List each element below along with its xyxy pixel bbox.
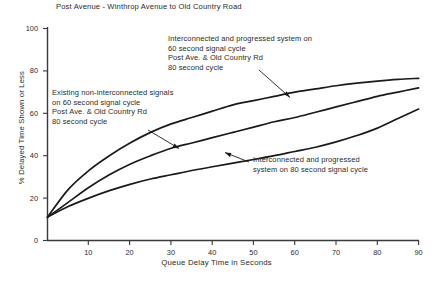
annotation-line: 80 second cycle (168, 63, 312, 73)
leader-line-interconnected-60 (259, 70, 290, 98)
y-axis-title: % Delayed Time Shown or Less (17, 48, 26, 208)
annotation-line: Existing non-interconnected signals (52, 88, 174, 98)
annotation-line: 60 second signal cycle (168, 44, 312, 54)
leader-line-interconnected-80 (225, 153, 249, 163)
x-tick-label-60: 60 (283, 248, 307, 257)
annotation-interconnected-60: Interconnected and progressed system on … (168, 34, 312, 72)
annotation-line: system on 80 second signal cycle (253, 165, 368, 175)
x-tick-label-70: 70 (324, 248, 348, 257)
annotation-existing-noninterconnected: Existing non-interconnected signals on 6… (52, 88, 174, 126)
x-tick-label-80: 80 (365, 248, 389, 257)
annotation-line: Interconnected and progressed (253, 155, 368, 165)
x-axis-title: Queue Delay Time in Seconds (0, 258, 433, 267)
annotation-line: Post Ave. & Old Country Rd (52, 107, 174, 117)
x-tick-label-40: 40 (200, 248, 224, 257)
annotation-interconnected-80: Interconnected and progressed system on … (253, 155, 368, 174)
x-tick-label-50: 50 (241, 248, 265, 257)
x-tick-label-90: 90 (407, 248, 431, 257)
x-tick-label-10: 10 (76, 248, 100, 257)
annotation-line: on 60 second signal cycle (52, 98, 174, 108)
chart-figure: Post Avenue - Winthrop Avenue to Old Cou… (0, 0, 433, 284)
annotation-line: Interconnected and progressed system on (168, 34, 312, 44)
leader-line-existing-noninterconnected (148, 130, 179, 149)
x-tick-label-20: 20 (118, 248, 142, 257)
annotation-line: Post Ave. & Old Country Rd (168, 53, 312, 63)
x-tick-label-30: 30 (159, 248, 183, 257)
annotation-line: 80 second cycle (52, 117, 174, 127)
y-tick-label-0: 0 (14, 236, 38, 245)
y-tick-label-100: 100 (14, 24, 38, 33)
